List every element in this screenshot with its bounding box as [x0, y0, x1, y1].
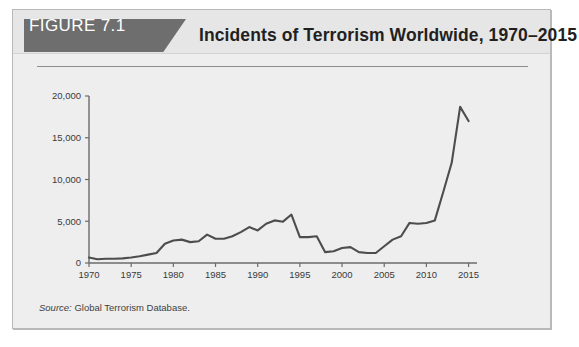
y-axis-tick-label: 15,000: [52, 132, 81, 143]
y-axis-tick-label: 20,000: [52, 90, 81, 101]
source-label: Source:: [39, 302, 72, 313]
series-line: [89, 107, 469, 259]
x-axis-tick-label: 1995: [289, 269, 310, 280]
x-axis-tick-label: 2000: [331, 269, 352, 280]
y-axis-tick-label: 5,000: [57, 216, 81, 227]
x-axis-tick-label: 2005: [374, 269, 395, 280]
line-chart-svg: 05,00010,00015,00020,0001970197519801985…: [13, 10, 552, 330]
figure-root: FIGURE 7.1 Incidents of Terrorism Worldw…: [0, 0, 579, 347]
chart-plot-area: 05,00010,00015,00020,0001970197519801985…: [13, 10, 550, 328]
x-axis-tick-label: 2010: [416, 269, 437, 280]
x-axis-tick-label: 1980: [163, 269, 184, 280]
figure-panel: FIGURE 7.1 Incidents of Terrorism Worldw…: [12, 9, 551, 329]
y-axis-tick-label: 10,000: [52, 174, 81, 185]
x-axis-tick-label: 1990: [247, 269, 268, 280]
y-axis-tick-label: 0: [76, 257, 81, 268]
x-axis-tick-label: 1985: [205, 269, 226, 280]
x-axis-tick-label: 1975: [121, 269, 142, 280]
x-axis-tick-label: 2015: [458, 269, 479, 280]
source-note: Source: Global Terrorism Database.: [39, 302, 190, 313]
x-axis-tick-label: 1970: [78, 269, 99, 280]
source-text: Global Terrorism Database.: [72, 302, 190, 313]
